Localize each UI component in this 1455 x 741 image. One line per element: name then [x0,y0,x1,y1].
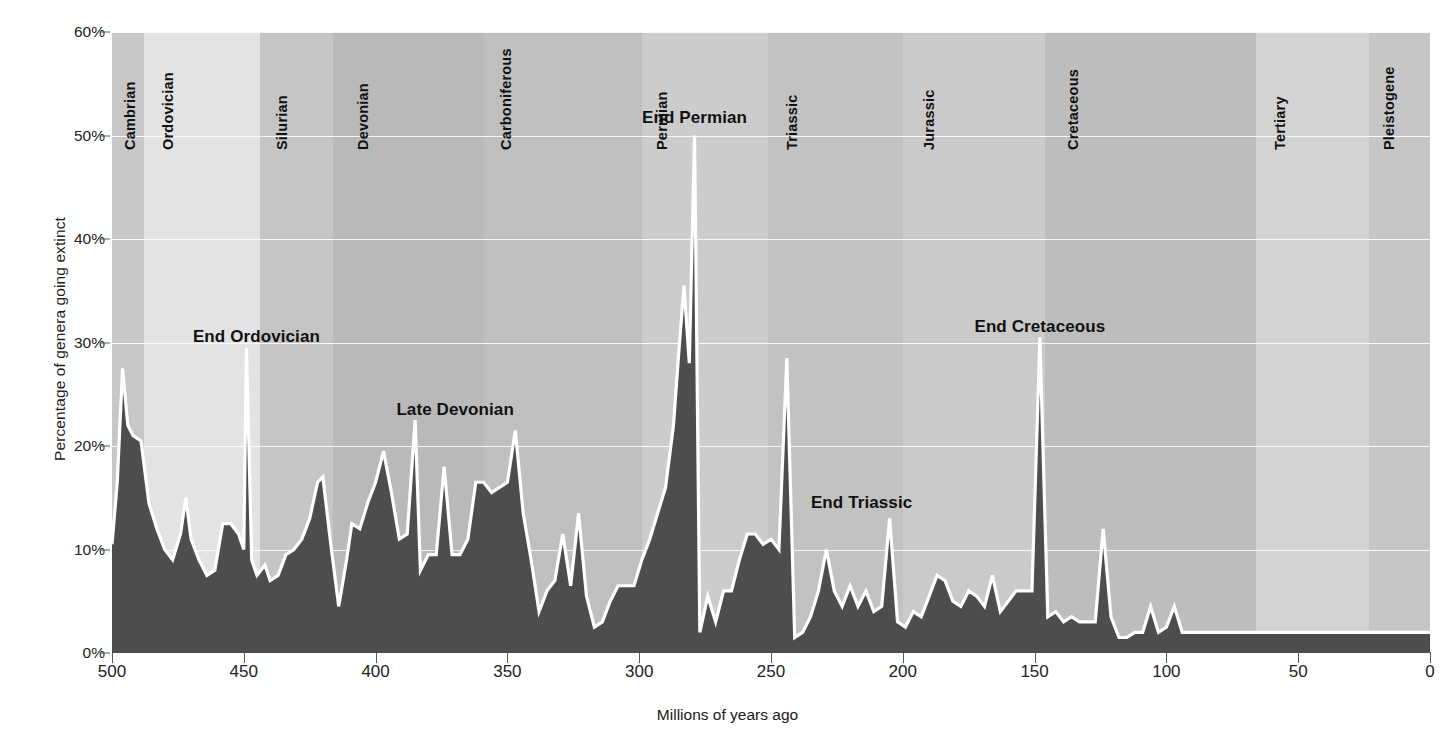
x-tick-label-150: 150 [1020,662,1048,682]
x-axis-title: Millions of years ago [0,706,1455,724]
y-tick-label-50pct: 50% [35,127,105,145]
y-tick-mark-20 [100,446,110,447]
x-tick-label-500: 500 [98,662,126,682]
y-tick-mark-60 [100,32,110,33]
annotation-end-cretaceous: End Cretaceous [974,317,1105,337]
annotation-end-ordovician: End Ordovician [193,327,320,347]
plot-area: CambrianOrdovicianSilurianDevonianCarbon… [112,32,1430,653]
y-tick-label-0pct: 0% [35,644,105,662]
extinction-area-fill [112,136,1430,654]
y-tick-mark-30 [100,342,110,343]
annotation-late-devonian: Late Devonian [396,400,514,420]
x-tick-label-50: 50 [1289,662,1308,682]
y-tick-mark-10 [100,549,110,550]
y-tick-mark-50 [100,135,110,136]
x-tick-label-300: 300 [625,662,653,682]
y-tick-label-60pct: 60% [35,23,105,41]
x-tick-label-200: 200 [889,662,917,682]
annotation-end-triassic: End Triassic [811,493,912,513]
x-tick-label-100: 100 [1152,662,1180,682]
x-tick-label-350: 350 [493,662,521,682]
x-tick-label-250: 250 [757,662,785,682]
extinction-chart: Percentage of genera going extinct Milli… [0,0,1455,741]
x-tick-label-450: 450 [230,662,258,682]
y-tick-label-40pct: 40% [35,230,105,248]
y-tick-label-10pct: 10% [35,541,105,559]
y-tick-mark-40 [100,239,110,240]
y-tick-label-30pct: 30% [35,334,105,352]
y-tick-label-20pct: 20% [35,437,105,455]
y-tick-mark-0 [100,653,110,654]
x-tick-label-400: 400 [361,662,389,682]
x-tick-label-0: 0 [1425,662,1434,682]
annotation-end-permian: End Permian [642,108,747,128]
